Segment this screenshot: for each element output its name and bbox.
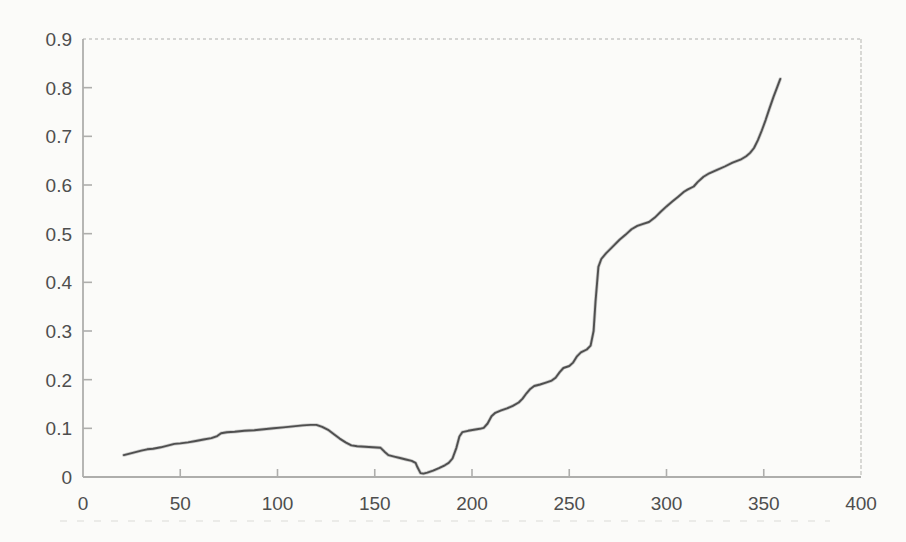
chart-figure: 05010015020025030035040000.10.20.30.40.5…	[0, 0, 906, 542]
y-tick-label: 0.2	[46, 370, 72, 391]
x-tick-label: 250	[553, 493, 585, 514]
y-tick-label: 0.9	[46, 29, 72, 50]
data-series-line	[124, 79, 781, 474]
x-tick-label: 200	[456, 493, 488, 514]
y-tick-label: 0.1	[46, 418, 72, 439]
y-tick-label: 0.8	[46, 78, 72, 99]
y-tick-label: 0.7	[46, 126, 72, 147]
x-tick-label: 350	[748, 493, 780, 514]
y-tick-label: 0	[61, 467, 72, 488]
x-tick-label: 100	[262, 493, 294, 514]
y-tick-label: 0.6	[46, 175, 72, 196]
y-tick-label: 0.4	[46, 272, 73, 293]
y-tick-label: 0.3	[46, 321, 72, 342]
x-tick-label: 0	[78, 493, 89, 514]
line-chart-canvas: 05010015020025030035040000.10.20.30.40.5…	[0, 0, 906, 542]
x-tick-label: 150	[359, 493, 391, 514]
x-tick-label: 50	[170, 493, 191, 514]
x-tick-label: 400	[845, 493, 877, 514]
x-tick-label: 300	[651, 493, 683, 514]
data-series-line-halo	[124, 79, 781, 474]
y-tick-label: 0.5	[46, 224, 72, 245]
